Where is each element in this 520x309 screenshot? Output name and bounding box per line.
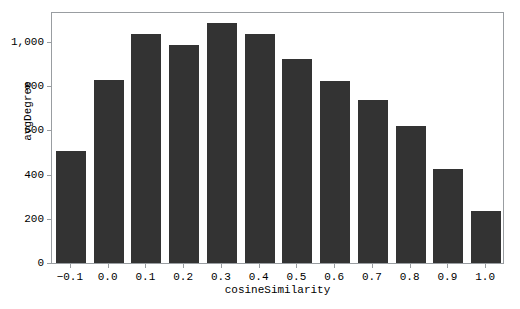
x-tick-mark: [447, 264, 448, 268]
bar[interactable]: [56, 151, 86, 263]
x-tick-mark: [334, 264, 335, 268]
bar[interactable]: [471, 211, 501, 263]
x-tick-mark: [259, 264, 260, 268]
x-tick-label: 0.1: [125, 271, 165, 283]
bar[interactable]: [207, 23, 237, 263]
x-tick-mark: [485, 264, 486, 268]
bar[interactable]: [358, 100, 388, 263]
bar[interactable]: [169, 45, 199, 263]
y-tick-label: 1,000: [11, 35, 44, 50]
y-tick-label: 200: [24, 212, 44, 227]
y-tick-mark: [47, 219, 51, 220]
y-tick-label: 400: [24, 168, 44, 183]
bar[interactable]: [320, 81, 350, 263]
x-axis-label: cosineSimilarity: [51, 284, 504, 296]
bar[interactable]: [94, 80, 124, 263]
x-tick-label: 0.9: [427, 271, 467, 283]
y-tick-mark: [47, 42, 51, 43]
y-axis-label: avgDegree: [22, 61, 34, 161]
y-tick-label: 0: [37, 256, 44, 271]
bar[interactable]: [433, 169, 463, 263]
x-tick-label: 0.7: [352, 271, 392, 283]
x-tick-label: 0.8: [390, 271, 430, 283]
x-tick-mark: [108, 264, 109, 268]
plot-area: [51, 12, 504, 264]
bar-series: [52, 13, 503, 263]
x-tick-label: −0.1: [50, 271, 90, 283]
y-tick-mark: [47, 86, 51, 87]
bar[interactable]: [245, 34, 275, 263]
chart-container: 02004006008001,000 avgDegree −0.10.00.10…: [0, 0, 520, 309]
x-tick-label: 0.5: [276, 271, 316, 283]
x-tick-mark: [221, 264, 222, 268]
bar[interactable]: [396, 126, 426, 263]
x-tick-label: 0.3: [201, 271, 241, 283]
x-tick-label: 0.4: [239, 271, 279, 283]
x-tick-label: 1.0: [465, 271, 505, 283]
bar[interactable]: [131, 34, 161, 263]
x-tick-mark: [145, 264, 146, 268]
x-tick-mark: [70, 264, 71, 268]
y-tick-mark: [47, 175, 51, 176]
y-tick-mark: [47, 130, 51, 131]
x-tick-label: 0.0: [88, 271, 128, 283]
x-tick-mark: [372, 264, 373, 268]
x-tick-mark: [410, 264, 411, 268]
x-tick-label: 0.6: [314, 271, 354, 283]
bar[interactable]: [282, 59, 312, 263]
x-tick-label: 0.2: [163, 271, 203, 283]
x-tick-mark: [183, 264, 184, 268]
x-tick-mark: [296, 264, 297, 268]
